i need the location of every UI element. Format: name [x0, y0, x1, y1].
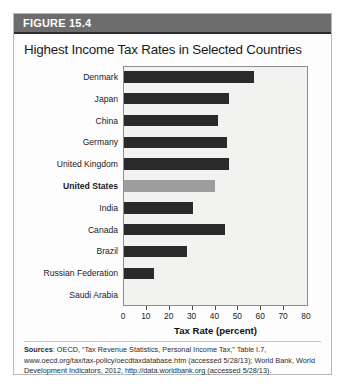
- chart-plot-wrapper: DenmarkJapanChinaGermanyUnited KingdomUn…: [14, 66, 333, 324]
- x-axis-tick-label: 10: [141, 311, 150, 321]
- source-text: : OECD, “Tax Revenue Statistics, Persona…: [24, 345, 315, 375]
- bar: [124, 71, 254, 83]
- figure-header-band: FIGURE 15.4: [14, 14, 331, 34]
- x-axis-title: Tax Rate (percent): [123, 325, 308, 336]
- bar-label: Russian Federation: [0, 268, 118, 278]
- bar-label: Saudi Arabia: [0, 290, 118, 300]
- bar: [124, 93, 229, 105]
- bar-row: China: [14, 110, 333, 132]
- x-axis-tick: [237, 306, 238, 310]
- bar-row: Russian Federation: [14, 262, 333, 284]
- source-note: Sources: OECD, “Tax Revenue Statistics, …: [24, 345, 323, 377]
- bar: [124, 202, 193, 214]
- bar-label: Germany: [0, 137, 118, 147]
- bar-row: United Kingdom: [14, 153, 333, 175]
- bar-label: Brazil: [0, 246, 118, 256]
- x-axis-tick-label: 80: [301, 311, 310, 321]
- bar-row: Saudi Arabia: [14, 284, 333, 306]
- bar: [124, 158, 229, 170]
- source-divider: [24, 341, 321, 342]
- bar: [124, 115, 218, 127]
- x-axis-tick-label: 50: [233, 311, 242, 321]
- bar-label: Japan: [0, 94, 118, 104]
- x-axis-tick-label: 0: [121, 311, 126, 321]
- bar-label: United Kingdom: [0, 159, 118, 169]
- bar-row: Japan: [14, 88, 333, 110]
- bar-row: Brazil: [14, 241, 333, 263]
- bar: [124, 180, 215, 192]
- figure-card: FIGURE 15.4 Highest Income Tax Rates in …: [13, 13, 332, 375]
- bar-row: Denmark: [14, 66, 333, 88]
- bar-row: India: [14, 197, 333, 219]
- bar-row: Germany: [14, 131, 333, 153]
- x-axis-tick: [260, 306, 261, 310]
- bar: [124, 224, 225, 236]
- bar: [124, 268, 154, 280]
- bar-label: Denmark: [0, 72, 118, 82]
- bar-rows: DenmarkJapanChinaGermanyUnited KingdomUn…: [14, 66, 333, 306]
- bar-label: Canada: [0, 225, 118, 235]
- x-axis-tick-label: 40: [210, 311, 219, 321]
- x-axis-tick-label: 60: [256, 311, 265, 321]
- x-axis-tick-label: 70: [278, 311, 287, 321]
- x-axis-tick: [283, 306, 284, 310]
- bar: [124, 246, 187, 258]
- bar-row: United States: [14, 175, 333, 197]
- source-prefix: Sources: [24, 345, 53, 354]
- figure-number-label: FIGURE 15.4: [23, 17, 91, 29]
- chart-title: Highest Income Tax Rates in Selected Cou…: [24, 42, 324, 57]
- x-axis-tick-label: 30: [187, 311, 196, 321]
- x-axis-tick-label: 20: [164, 311, 173, 321]
- bar-row: Canada: [14, 219, 333, 241]
- bar-label: India: [0, 203, 118, 213]
- x-axis-tick: [169, 306, 170, 310]
- bar: [124, 137, 227, 149]
- x-axis-tick: [146, 306, 147, 310]
- x-axis-tick: [192, 306, 193, 310]
- x-axis: 01020304050607080: [123, 306, 308, 324]
- bar-label: United States: [0, 181, 118, 191]
- x-axis-tick: [215, 306, 216, 310]
- bar-label: China: [0, 116, 118, 126]
